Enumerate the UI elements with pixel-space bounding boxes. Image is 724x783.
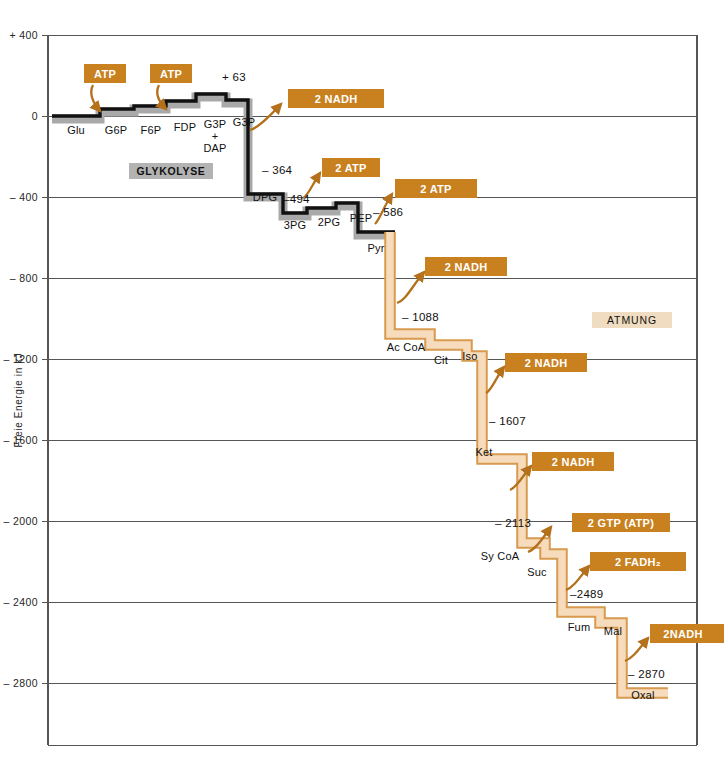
badge-nadh-3-text: 2 NADH [525, 357, 568, 369]
badge-atp-out-2[interactable]: 2 ATP [395, 179, 477, 198]
badge-atp-in-2[interactable]: ATP [150, 64, 192, 83]
badge-nadh-2[interactable]: 2 NADH [425, 257, 507, 276]
value-label-oxal: – 2870 [628, 668, 665, 680]
badge-gtp-1-text: 2 GTP (ATP) [588, 517, 654, 529]
figure-canvas: + 400 0 – 400 – 800 – 1200 – 1600 – 2000… [0, 0, 724, 783]
metabolite-label-3pg: 3PG [284, 219, 307, 231]
badge-nadh-5[interactable]: 2NADH [650, 624, 724, 643]
y-tick-label-m2000: – 2000 [3, 515, 38, 527]
badge-nadh-1[interactable]: 2 NADH [288, 89, 384, 108]
metabolite-label-g3p-dap-line3: DAP [203, 142, 226, 154]
badge-atp-out-2-text: 2 ATP [420, 183, 451, 195]
metabolite-label-fum: Fum [568, 621, 591, 633]
badge-nadh-3[interactable]: 2 NADH [505, 353, 587, 372]
energy-diagram-svg: + 400 0 – 400 – 800 – 1200 – 1600 – 2000… [0, 0, 724, 783]
metabolite-label-fdp: FDP [174, 121, 197, 133]
metabolite-label-suc: Suc [527, 566, 547, 578]
metabolite-label-accoa: Ac CoA [387, 341, 426, 353]
value-label-ket: – 1607 [489, 415, 526, 427]
arrow-atp-in-1 [91, 85, 100, 111]
metabolite-label-g3p-dap: G3P + DAP [203, 118, 226, 154]
badge-nadh-2-text: 2 NADH [445, 261, 488, 273]
value-label-g3p: + 63 [222, 71, 246, 83]
metabolite-label-2pg: 2PG [318, 216, 341, 228]
metabolite-label-dpg: DPG [253, 191, 277, 203]
arrow-nadh-5 [625, 638, 648, 661]
metabolite-label-f6p: F6P [141, 124, 162, 136]
badge-nadh-4-text: 2 NADH [552, 456, 595, 468]
section-label-glycolysis: GLYKOLYSE [129, 163, 213, 179]
gridlines [48, 35, 697, 745]
badge-atp-in-1-text: ATP [94, 68, 116, 80]
metabolite-label-mal: Mal [604, 625, 622, 637]
value-label-sycoa: – 2113 [495, 517, 531, 529]
badge-atp-in-2-text: ATP [160, 68, 182, 80]
metabolite-label-g3p-dap-line1: G3P [204, 118, 227, 130]
badge-atp-in-1[interactable]: ATP [84, 64, 126, 83]
y-axis-title: Freie Energie in kJ [13, 353, 24, 448]
metabolite-label-glu: Glu [67, 124, 85, 136]
respiration-label-text: ATMUNG [607, 314, 657, 326]
metabolite-label-oxal: Oxal [631, 689, 654, 701]
value-label-fum: –2489 [570, 588, 603, 600]
y-tick-label-m2400: – 2400 [3, 596, 38, 608]
y-tick-label-m800: – 800 [10, 272, 38, 284]
arrow-nadh-3 [486, 367, 504, 393]
y-tick-label-m2800: – 2800 [3, 677, 38, 689]
value-label-pyr: – 586 [373, 206, 403, 218]
badge-atp-out-1-text: 2 ATP [335, 162, 366, 174]
badge-nadh-5-text: 2NADH [663, 628, 702, 640]
metabolite-label-iso: Iso [462, 350, 477, 362]
arrow-fadh-1 [566, 566, 589, 590]
badge-nadh-4[interactable]: 2 NADH [532, 452, 614, 471]
metabolite-label-pyr: Pyr [367, 242, 384, 254]
metabolite-label-ket: Ket [475, 446, 492, 458]
metabolite-label-pep: PEP [350, 212, 373, 224]
value-label-dpg: – 364 [262, 164, 293, 176]
respiration-path [390, 232, 668, 693]
metabolite-label-g3p-dap-line2: + [212, 130, 219, 142]
badge-fadh-1[interactable]: 2 FADH₂ [590, 552, 686, 571]
badge-nadh-1-text: 2 NADH [315, 93, 358, 105]
y-tick-label-m400: – 400 [10, 191, 38, 203]
arrow-nadh-2 [397, 272, 424, 303]
y-tick-label-400: + 400 [9, 29, 38, 41]
metabolite-label-g3p: G3P [233, 116, 256, 128]
y-tick-label-0: 0 [32, 110, 38, 122]
glycolysis-label-text: GLYKOLYSE [136, 165, 205, 177]
metabolite-label-sycoa: Sy CoA [481, 550, 520, 562]
metabolite-label-g6p: G6P [105, 124, 128, 136]
badge-atp-out-1[interactable]: 2 ATP [322, 158, 380, 177]
metabolite-label-cit: Cit [434, 354, 448, 366]
badge-fadh-1-text: 2 FADH₂ [615, 556, 661, 568]
value-label-3pg: –494 [283, 193, 310, 205]
badge-gtp-1[interactable]: 2 GTP (ATP) [572, 513, 670, 532]
section-label-respiration: ATMUNG [592, 312, 672, 328]
value-label-accoa: – 1088 [402, 311, 439, 323]
